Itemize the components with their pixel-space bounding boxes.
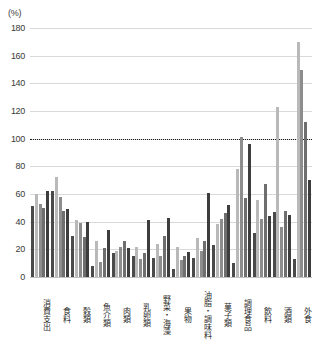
bar[interactable] xyxy=(300,70,303,278)
bar[interactable] xyxy=(200,251,203,277)
bar-chart: (%) 020406080100120140160180 消費支出食料穀類魚介類… xyxy=(0,0,315,352)
bar[interactable] xyxy=(159,256,162,277)
bar[interactable] xyxy=(260,219,263,277)
bar[interactable] xyxy=(55,177,58,277)
y-tick-label-20: 20 xyxy=(0,244,25,254)
bar[interactable] xyxy=(216,224,219,277)
bar[interactable] xyxy=(75,220,78,277)
bar[interactable] xyxy=(293,259,296,277)
bar[interactable] xyxy=(123,241,126,277)
bar[interactable] xyxy=(280,227,283,277)
bar[interactable] xyxy=(103,248,106,277)
bar-group-5 xyxy=(131,28,151,277)
bar[interactable] xyxy=(31,206,34,277)
bar[interactable] xyxy=(42,208,45,277)
bar-group-7 xyxy=(171,28,191,277)
y-tick-label-120: 120 xyxy=(0,106,25,116)
bar[interactable] xyxy=(83,237,86,277)
bar-group-8 xyxy=(191,28,211,277)
bar[interactable] xyxy=(39,204,42,277)
x-axis-label-11: 飲料 xyxy=(252,280,272,350)
bar[interactable] xyxy=(308,180,311,277)
bar[interactable] xyxy=(180,260,183,277)
bar[interactable] xyxy=(71,236,74,278)
bar[interactable] xyxy=(297,42,300,277)
bar-group-13 xyxy=(292,28,312,277)
y-tick-label-40: 40 xyxy=(0,217,25,227)
bar[interactable] xyxy=(91,266,94,277)
bar[interactable] xyxy=(119,247,122,277)
bar[interactable] xyxy=(220,219,223,277)
bar[interactable] xyxy=(224,213,227,277)
bar[interactable] xyxy=(95,241,98,277)
bar[interactable] xyxy=(284,211,287,277)
bar[interactable] xyxy=(276,107,279,277)
bar-group-1 xyxy=(50,28,70,277)
bar[interactable] xyxy=(35,194,38,277)
bar[interactable] xyxy=(139,259,142,277)
bar[interactable] xyxy=(304,122,307,277)
bar[interactable] xyxy=(227,205,230,277)
bar[interactable] xyxy=(99,262,102,277)
bar[interactable] xyxy=(143,253,146,277)
bar[interactable] xyxy=(288,215,291,277)
bar[interactable] xyxy=(253,233,256,277)
bar[interactable] xyxy=(152,258,155,277)
bar[interactable] xyxy=(264,184,267,277)
bar[interactable] xyxy=(187,252,190,277)
bar[interactable] xyxy=(240,137,243,277)
bar[interactable] xyxy=(135,247,138,277)
bar[interactable] xyxy=(112,253,115,277)
bar[interactable] xyxy=(176,247,179,277)
bar[interactable] xyxy=(183,256,186,277)
bar[interactable] xyxy=(273,212,276,277)
bar-group-10 xyxy=(231,28,251,277)
bar-group-6 xyxy=(151,28,171,277)
x-axis-label-5: 乳卵類 xyxy=(131,280,151,350)
bar[interactable] xyxy=(207,193,210,277)
bar[interactable] xyxy=(86,222,89,277)
bar-group-12 xyxy=(272,28,292,277)
bar[interactable] xyxy=(107,230,110,277)
bar[interactable] xyxy=(192,258,195,277)
bar[interactable] xyxy=(256,200,259,277)
bar-group-9 xyxy=(211,28,231,277)
x-axis-label-0: 消費支出 xyxy=(30,280,50,350)
bar[interactable] xyxy=(232,263,235,277)
x-axis-label-13: 外食 xyxy=(292,280,312,350)
bar[interactable] xyxy=(147,220,150,277)
bar[interactable] xyxy=(212,245,215,277)
y-tick-label-80: 80 xyxy=(0,161,25,171)
bar[interactable] xyxy=(79,223,82,277)
bar[interactable] xyxy=(248,144,251,277)
x-axis-label-7: 果物 xyxy=(171,280,191,350)
bar-group-0 xyxy=(30,28,50,277)
bar[interactable] xyxy=(59,197,62,277)
bar-group-4 xyxy=(111,28,131,277)
bar[interactable] xyxy=(66,209,69,277)
bar[interactable] xyxy=(132,256,135,277)
bar[interactable] xyxy=(51,191,54,277)
bar[interactable] xyxy=(203,241,206,277)
bar[interactable] xyxy=(196,238,199,277)
y-tick-label-140: 140 xyxy=(0,78,25,88)
plot-area: 020406080100120140160180 xyxy=(30,28,312,277)
x-axis-label-10: 調理食品 xyxy=(231,280,251,350)
bar[interactable] xyxy=(62,211,65,277)
bar[interactable] xyxy=(163,236,166,278)
bar[interactable] xyxy=(115,251,118,277)
bar-group-11 xyxy=(252,28,272,277)
bar[interactable] xyxy=(244,198,247,277)
x-axis-label-4: 肉類 xyxy=(111,280,131,350)
bar[interactable] xyxy=(156,244,159,277)
bar[interactable] xyxy=(236,169,239,277)
bar[interactable] xyxy=(46,191,49,277)
y-tick-label-180: 180 xyxy=(0,23,25,33)
bar[interactable] xyxy=(127,248,130,277)
bar[interactable] xyxy=(268,216,271,277)
bar-group-3 xyxy=(90,28,110,277)
bar[interactable] xyxy=(167,218,170,277)
x-axis-label-1: 食料 xyxy=(50,280,70,350)
x-axis-label-12: 酒類 xyxy=(272,280,292,350)
bar[interactable] xyxy=(172,269,175,277)
